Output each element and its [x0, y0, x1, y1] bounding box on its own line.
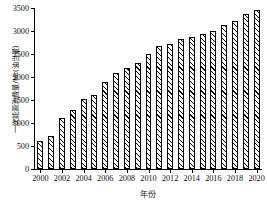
y-axis-tick-label: 2000 [13, 73, 29, 82]
y-axis-tick [31, 169, 35, 170]
bar [81, 99, 87, 169]
x-axis-tick-label: 2000 [32, 174, 48, 183]
x-axis-tick [257, 169, 258, 173]
bar [156, 46, 162, 169]
x-axis-tick-label: 2002 [54, 174, 70, 183]
y-axis-tick-label: 3500 [13, 4, 29, 13]
y-axis-tick [31, 31, 35, 32]
bar [102, 82, 108, 169]
x-axis-title: 年份 [34, 188, 262, 199]
y-axis-tick [31, 100, 35, 101]
x-axis-tick [84, 169, 85, 173]
y-axis-tick [31, 77, 35, 78]
bar [221, 25, 227, 169]
chart-figure: 一次能源消费量/Mt(油当量) 050010001500200025003000… [0, 0, 267, 207]
bar [210, 31, 216, 169]
y-axis-tick-label: 1500 [13, 96, 29, 105]
bar [178, 39, 184, 169]
bar [167, 44, 173, 169]
y-axis-tick [31, 146, 35, 147]
x-axis-tick [127, 169, 128, 173]
x-axis-tick-label: 2006 [97, 174, 113, 183]
y-axis-tick-label: 500 [17, 142, 29, 151]
bar [189, 37, 195, 169]
x-axis-tick [192, 169, 193, 173]
x-axis-tick-label: 2008 [119, 174, 135, 183]
x-axis-tick-label: 2018 [227, 174, 243, 183]
x-axis-tick-label: 2016 [205, 174, 221, 183]
bar [200, 34, 206, 169]
bar [146, 54, 152, 169]
bar [37, 141, 43, 169]
x-axis-tick-label: 2020 [248, 174, 264, 183]
x-axis-tick-label: 2014 [184, 174, 200, 183]
bar [254, 10, 260, 169]
x-axis-tick [149, 169, 150, 173]
bar [232, 21, 238, 169]
x-axis-tick [105, 169, 106, 173]
bar [124, 68, 130, 169]
bar [91, 95, 97, 169]
x-axis-tick-label: 2012 [162, 174, 178, 183]
x-axis-tick [40, 169, 41, 173]
bar [48, 136, 54, 169]
y-axis-tick-label: 1000 [13, 119, 29, 128]
bar [135, 63, 141, 169]
bar [113, 73, 119, 169]
bar [243, 14, 249, 169]
y-axis-tick-label: 3000 [13, 27, 29, 36]
x-axis-tick-label: 2010 [140, 174, 156, 183]
bar [59, 118, 65, 169]
y-axis-tick [31, 8, 35, 9]
y-axis-tick-label: 0 [25, 165, 29, 174]
x-axis-tick [213, 169, 214, 173]
y-axis-tick [31, 123, 35, 124]
x-axis-tick [62, 169, 63, 173]
y-axis-tick [31, 54, 35, 55]
x-axis-tick [170, 169, 171, 173]
x-axis-tick [235, 169, 236, 173]
bar [70, 110, 76, 169]
plot-area: 0500100015002000250030003500 20002002200… [34, 8, 262, 170]
y-axis-tick-label: 2500 [13, 50, 29, 59]
x-axis-tick-label: 2004 [75, 174, 91, 183]
